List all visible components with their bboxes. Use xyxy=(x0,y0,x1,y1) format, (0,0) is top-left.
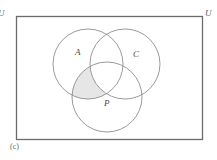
universal-set-label-left: U xyxy=(0,9,5,18)
set-label-c: C xyxy=(133,50,139,59)
universal-set-label-right: U xyxy=(205,9,212,18)
figure-caption: (c) xyxy=(10,142,19,151)
venn-diagram xyxy=(0,0,217,160)
set-label-a: A xyxy=(75,48,81,57)
figure-panel: U U A C P (c) xyxy=(0,0,217,160)
set-label-p: P xyxy=(104,99,110,108)
